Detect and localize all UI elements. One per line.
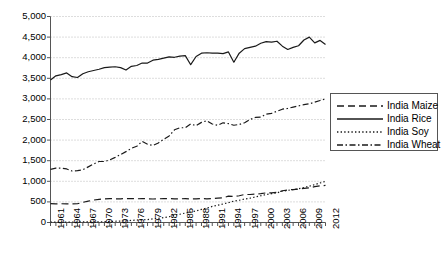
x-axis-tick-label: 1973 [119, 207, 130, 228]
x-axis-tick-label: 2003 [281, 207, 292, 228]
y-axis-tick-label: 3,000 [0, 92, 46, 103]
x-axis-tick-label: 1988 [200, 207, 211, 228]
x-axis-tick-label: 1979 [152, 207, 163, 228]
y-axis-tick-label: 4,500 [0, 31, 46, 42]
x-axis-tick-label: 2006 [297, 207, 308, 228]
x-axis-tick-label: 1991 [216, 207, 227, 228]
x-axis-tick-label: 2000 [265, 207, 276, 228]
legend-line-sample-icon [335, 125, 385, 139]
y-axis-tick-label: 500 [0, 195, 46, 206]
legend-item-label: India Rice [387, 112, 431, 126]
legend-item[interactable]: India Wheat [331, 138, 439, 152]
legend-item[interactable]: India Soy [331, 125, 439, 139]
x-axis-tick-label: 1982 [168, 207, 179, 228]
x-axis-tick-label: 1970 [103, 207, 114, 228]
x-axis-tick-label: 1964 [71, 207, 82, 228]
chart-legend: India MaizeIndia RiceIndia SoyIndia Whea… [330, 93, 438, 151]
y-axis-tick-label: 2,000 [0, 134, 46, 145]
legend-line-sample-icon [335, 112, 385, 126]
x-axis-tick-label: 1976 [135, 207, 146, 228]
legend-line-sample-icon [335, 99, 385, 113]
series-line-india-rice [51, 37, 326, 80]
x-axis-tick-label: 2012 [330, 207, 341, 228]
x-axis-tick-label: 2009 [313, 207, 324, 228]
y-axis-tick-label: 1,000 [0, 175, 46, 186]
x-axis-tick-label: 1994 [232, 207, 243, 228]
legend-item-label: India Maize [387, 99, 438, 113]
series-line-india-maize [51, 185, 326, 204]
x-axis-tick-label: 1985 [184, 207, 195, 228]
y-axis-tick-label: 2,500 [0, 113, 46, 124]
y-axis-tick-label: 3,500 [0, 72, 46, 83]
series-line-india-wheat [51, 99, 326, 171]
x-axis-tick-label: 1997 [249, 207, 260, 228]
y-axis-tick-label: 5,000 [0, 10, 46, 21]
line-chart: 05001,0001,5002,0002,5003,0003,5004,0004… [0, 0, 446, 273]
y-axis-tick-label: 0 [0, 216, 46, 227]
x-axis-tick-label: 1967 [87, 207, 98, 228]
legend-item[interactable]: India Maize [331, 99, 439, 113]
legend-item[interactable]: India Rice [331, 112, 439, 126]
legend-line-sample-icon [335, 138, 385, 152]
legend-item-label: India Soy [387, 125, 429, 139]
y-axis-tick-label: 1,500 [0, 154, 46, 165]
x-axis-tick-label: 1961 [55, 207, 66, 228]
legend-item-label: India Wheat [387, 138, 440, 152]
y-axis-tick-label: 4,000 [0, 51, 46, 62]
